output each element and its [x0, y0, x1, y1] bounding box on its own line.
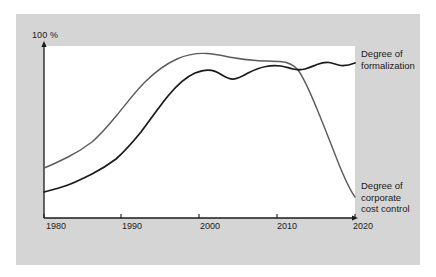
x-tick-label-1980: 1980 [46, 221, 66, 231]
x-tick-label-2010: 2010 [277, 221, 297, 231]
series-label-corporate-cost-control: Degree of corporate cost control [361, 180, 410, 215]
series-label-cost-control-line-1: Degree of [361, 180, 410, 192]
chart-svg [0, 0, 436, 277]
y-axis-max-label: 100 % [32, 30, 58, 40]
chart-figure: 100 % 1980 1990 2000 2010 2020 Degree of… [0, 0, 436, 277]
series-label-cost-control-line-3: cost control [361, 203, 410, 215]
series-label-formalization-line-2: formalization [361, 60, 415, 72]
x-tick-label-2020: 2020 [353, 221, 373, 231]
x-tick-label-2000: 2000 [200, 221, 220, 231]
series-label-cost-control-line-2: corporate [361, 192, 410, 204]
x-tick-label-1990: 1990 [122, 221, 142, 231]
series-line-formalization [44, 62, 355, 192]
series-label-formalization: Degree of formalization [361, 48, 415, 71]
series-label-formalization-line-1: Degree of [361, 48, 415, 60]
x-axis [44, 215, 358, 220]
